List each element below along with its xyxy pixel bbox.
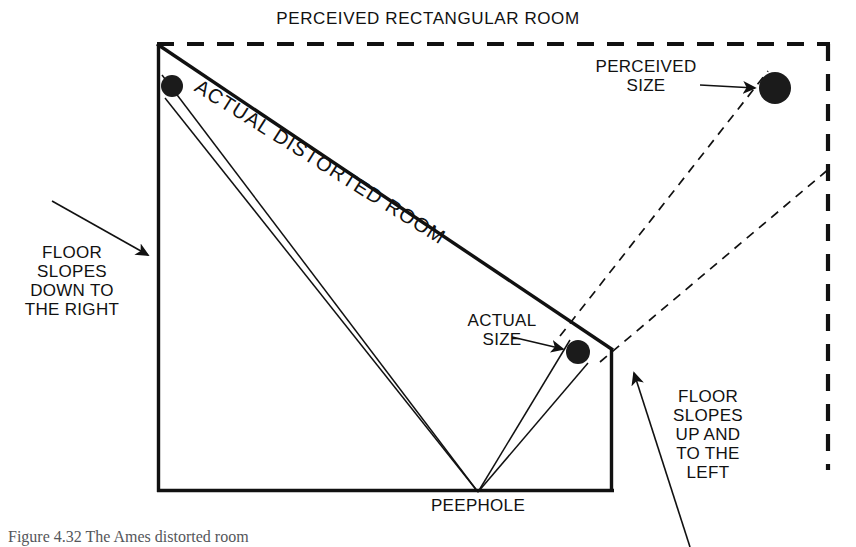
perceived-size-sphere xyxy=(759,72,791,104)
floor-slopes-down-label: FLOOR SLOPES DOWN TO THE RIGHT xyxy=(8,243,136,319)
figure-caption: Figure 4.32 The Ames distorted room xyxy=(8,528,568,546)
actual-distorted-room-label: ACTUAL DISTORTED ROOM xyxy=(191,75,450,249)
projection-line-upper xyxy=(560,71,768,336)
perceived-size-label: PERCEIVED SIZE xyxy=(586,57,706,95)
projection-line-lower xyxy=(600,168,830,362)
floor-slopes-up-label: FLOOR SLOPES UP AND TO THE LEFT xyxy=(648,387,768,482)
perceived-size-arrow xyxy=(700,85,755,88)
actual-distorted-room-textpath: ACTUAL DISTORTED ROOM xyxy=(191,75,450,249)
sight-line-right-lower xyxy=(478,363,588,492)
page-title: PERCEIVED RECTANGULAR ROOM xyxy=(0,9,856,28)
actual-size-label: ACTUAL SIZE xyxy=(447,311,557,349)
projection-lines xyxy=(560,71,830,362)
peephole-label: PEEPHOLE xyxy=(398,496,558,515)
actual-size-sphere-right xyxy=(566,340,590,364)
actual-size-sphere-left xyxy=(161,75,183,97)
sight-lines xyxy=(162,75,588,492)
figure-canvas: ACTUAL DISTORTED ROOM PERCEIVED RECTANGU… xyxy=(0,0,856,547)
sight-line-left-upper xyxy=(162,75,478,492)
sight-line-right-upper xyxy=(478,340,570,492)
